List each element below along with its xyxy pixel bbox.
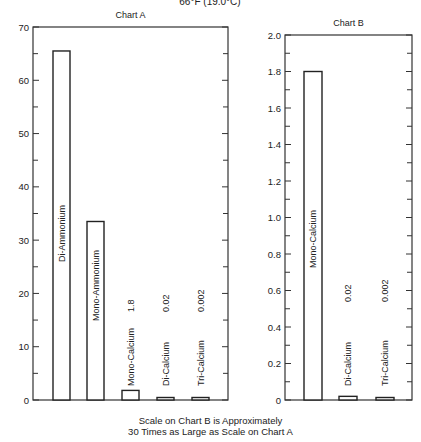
charts-figure: 66°F (19.0°C)Chart A010203040506070Di-Am… <box>0 0 421 442</box>
chart-b-ytick-label: 0.4 <box>268 322 281 333</box>
chart-a-ytick-label: 20 <box>18 288 29 299</box>
footnote-line-1: Scale on Chart B is Approximately <box>0 415 421 426</box>
chart-b-ytick-label: 1.8 <box>268 66 281 77</box>
chart-b-ytick-label: 2.0 <box>268 30 281 41</box>
chart-b-ytick-label: 0.8 <box>268 249 281 260</box>
chart-a-ytick-label: 50 <box>18 128 29 139</box>
chart-a-ytick-label: 70 <box>18 22 29 33</box>
chart-b-title: Chart B <box>333 18 364 28</box>
chart-a-title: Chart A <box>115 10 145 20</box>
chart-a-category-label: Di-Ammonium <box>57 205 67 262</box>
chart-a-value-label: 1.8 <box>126 299 136 312</box>
top-cut-label: 66°F (19.0°C) <box>179 0 240 7</box>
chart-b-value-label: 0.002 <box>380 279 390 302</box>
chart-a-ytick-label: 60 <box>18 75 29 86</box>
chart-b-ytick-label: 0 <box>276 395 281 406</box>
chart-a-value-label: 0.02 <box>161 294 171 312</box>
chart-b-bar <box>376 398 394 401</box>
chart-a-ytick-label: 30 <box>18 235 29 246</box>
chart-a-ytick-label: 0 <box>24 395 29 406</box>
chart-b-ytick-label: 0.2 <box>268 358 281 369</box>
chart-a-category-label: Di-Calcium <box>161 342 171 386</box>
chart-a-category-label: Tri-Calcium <box>196 340 206 386</box>
footnote-line-2: 30 Times as Large as Scale on Chart A <box>0 426 421 437</box>
chart-b-ytick-label: 1.4 <box>268 139 281 150</box>
chart-b-ytick-label: 1.6 <box>268 103 281 114</box>
chart-b-value-label: 0.02 <box>343 284 353 302</box>
chart-b-category-label: Di-Calcium <box>343 342 353 386</box>
chart-a-ytick-label: 40 <box>18 181 29 192</box>
chart-a-category-label: Mono-Calcium <box>126 328 136 386</box>
chart-a-bar <box>192 398 209 401</box>
chart-b-category-label: Tri-Calcium <box>380 340 390 386</box>
chart-a-ytick-label: 10 <box>18 341 29 352</box>
chart-a-bar <box>157 398 174 401</box>
chart-b-ytick-label: 0.6 <box>268 285 281 296</box>
chart-b-category-label: Mono-Calcium <box>308 210 318 268</box>
chart-b-ytick-label: 1.0 <box>268 212 281 223</box>
chart-b-ytick-label: 1.2 <box>268 176 281 187</box>
chart-a-category-label: Mono-Ammonium <box>91 250 101 321</box>
chart-b-bar <box>339 396 357 400</box>
chart-a-value-label: 0.002 <box>196 289 206 312</box>
chart-a-bar <box>122 390 139 400</box>
